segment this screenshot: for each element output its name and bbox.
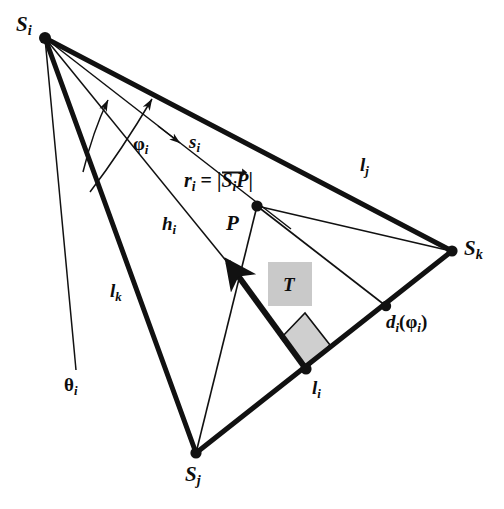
label-lk-sub: k [115, 289, 121, 304]
label-theta-main: θ [64, 374, 74, 395]
vector-SiP-group: SiP [221, 170, 248, 193]
label-Si-main: S [16, 12, 28, 36]
vertex-dot-li [300, 363, 311, 374]
label-formula-ri: ri = |SiP| [184, 170, 253, 193]
label-si-sub: i [196, 140, 200, 155]
label-vertex-Sj: Sj [185, 464, 201, 487]
label-region-T: T [283, 275, 295, 294]
label-T-main: T [283, 274, 295, 295]
vector-arrow-overbar [222, 168, 247, 177]
label-ri-equals: = [196, 169, 217, 191]
geometry-figure: Si Sj Sk P lj lk li hi si φi θi T di(φi)… [0, 0, 504, 509]
label-point-P: P [226, 213, 239, 234]
label-segment-hi: hi [162, 214, 176, 237]
label-theta-sub: i [74, 383, 78, 398]
figure-canvas [0, 0, 504, 509]
label-hi-main: h [162, 213, 173, 234]
chord-P-Sj [196, 206, 257, 453]
ray-hi-line [45, 38, 249, 289]
label-vertex-Si: Si [16, 14, 32, 37]
label-li-sub: i [317, 386, 321, 401]
label-Sj-sub: j [197, 472, 201, 488]
label-Sj-main: S [185, 462, 197, 486]
label-phi-sub: i [145, 142, 149, 157]
vertex-dot-Sk [446, 245, 457, 256]
label-angle-phi-i: φi [133, 134, 148, 157]
label-edge-lj: lj [360, 155, 369, 178]
label-vertex-Sk: Sk [464, 238, 483, 261]
vertex-dot-di [381, 301, 391, 311]
vertex-dot-Sj [190, 447, 201, 458]
edge-lj [45, 38, 452, 251]
label-P-main: P [226, 211, 239, 235]
label-ri-bar-right: | [249, 169, 253, 191]
label-function-di-phi-i: di(φi) [386, 312, 427, 335]
label-Sk-sub: k [476, 246, 483, 262]
edge-li [196, 251, 452, 453]
label-Si-sub: i [28, 22, 32, 38]
label-di-prefix: d [386, 311, 396, 332]
label-edge-li: li [312, 378, 321, 401]
label-phi-main: φ [133, 133, 145, 154]
label-ray-si: si [189, 132, 200, 155]
label-edge-lk: lk [110, 281, 122, 304]
label-hi-sub: i [173, 222, 177, 237]
vertex-dot-Si [39, 32, 51, 44]
vertex-dot-P [251, 200, 262, 211]
label-lj-sub: j [365, 163, 369, 178]
si-direction-arrow [158, 126, 180, 143]
label-angle-theta-i: θi [64, 375, 78, 398]
label-di-greek: φ [405, 311, 417, 332]
label-ri-lhs: r [184, 169, 192, 191]
label-di-close-paren: ) [421, 311, 427, 332]
label-Sk-main: S [464, 236, 476, 260]
